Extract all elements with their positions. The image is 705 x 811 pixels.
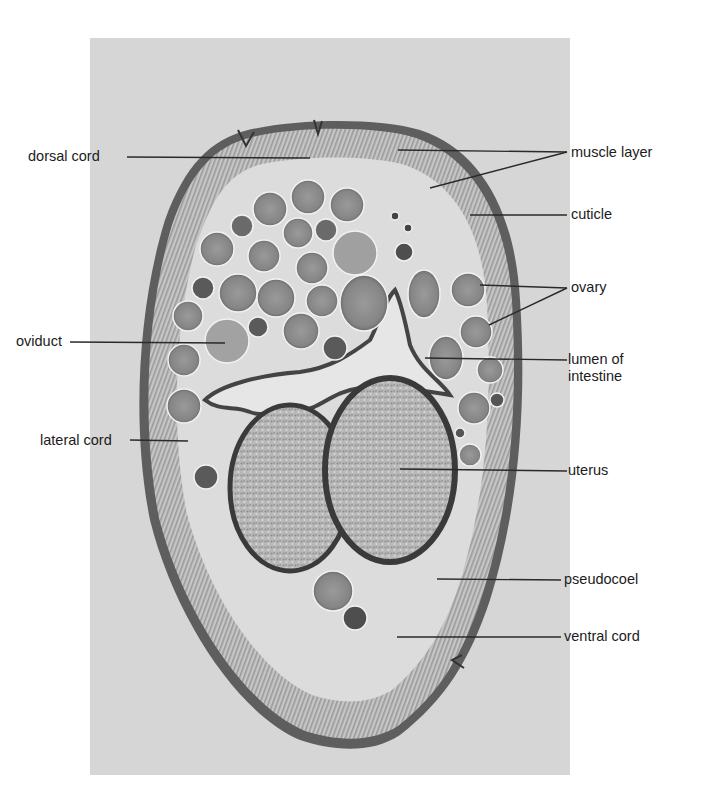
label-cuticle: cuticle <box>571 206 612 223</box>
label-ovary: ovary <box>571 279 606 296</box>
label-dorsal-cord: dorsal cord <box>28 148 100 165</box>
label-oviduct: oviduct <box>16 333 62 350</box>
label-lumen-line1: lumen of <box>568 351 624 368</box>
label-uterus: uterus <box>568 462 608 479</box>
label-ventral-cord: ventral cord <box>564 628 640 645</box>
label-lumen-of-intestine: lumen of intestine <box>568 351 624 385</box>
label-muscle-layer: muscle layer <box>571 144 652 161</box>
label-lateral-cord: lateral cord <box>40 432 112 449</box>
label-lumen-line2: intestine <box>568 368 624 385</box>
label-pseudocoel: pseudocoel <box>564 571 638 588</box>
micrograph-figure <box>0 0 705 811</box>
